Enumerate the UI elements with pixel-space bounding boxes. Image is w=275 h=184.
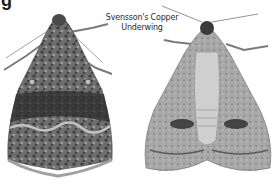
cropped-heading-text: g [1, 0, 12, 9]
moth-figure: g Svensson's Copper Underwing [0, 0, 275, 184]
moth-underside-image [140, 0, 275, 184]
moth-upperside-image [0, 10, 120, 182]
